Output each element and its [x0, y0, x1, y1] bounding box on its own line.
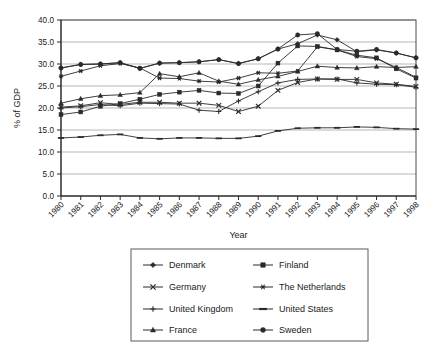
data-point-circle — [79, 62, 83, 66]
data-point-circle — [118, 60, 122, 64]
data-point-dash — [97, 134, 103, 136]
data-point-dash — [259, 308, 267, 310]
data-point-dash — [393, 128, 399, 130]
legend-label: France — [169, 325, 197, 335]
data-point-circle — [335, 47, 339, 51]
data-point-square — [177, 90, 181, 94]
data-point-dash — [196, 137, 202, 139]
data-point-square — [217, 91, 221, 95]
legend-label: Finland — [279, 260, 309, 270]
data-point-dash — [176, 137, 182, 139]
data-point-dash — [373, 126, 379, 128]
data-point-circle — [261, 328, 266, 333]
y-tick-label: 15.0 — [38, 126, 54, 135]
data-point-dash — [295, 127, 301, 129]
gdp-line-chart: 0.05.010.015.020.025.030.035.040.0 19801… — [0, 0, 434, 350]
data-point-circle — [197, 60, 201, 64]
chart-legend: DenmarkFinlandGermanyThe NetherlandsUnit… — [131, 249, 368, 341]
chart-container: 0.05.010.015.020.025.030.035.040.0 19801… — [0, 0, 434, 350]
data-point-dash — [137, 137, 143, 139]
data-point-circle — [315, 31, 319, 35]
data-point-square — [276, 61, 280, 65]
data-point-dash — [117, 134, 123, 136]
data-point-dash — [413, 128, 419, 130]
data-point-circle — [295, 33, 299, 37]
data-point-circle — [414, 56, 418, 60]
data-point-dash — [216, 137, 222, 139]
data-point-circle — [138, 66, 142, 70]
legend-label: United Kingdom — [169, 304, 233, 314]
y-tick-label: 40.0 — [38, 16, 54, 25]
data-point-square — [296, 44, 300, 48]
legend-label: United States — [279, 304, 334, 314]
data-point-circle — [256, 57, 260, 61]
y-axis-title: % of GDP — [12, 88, 22, 128]
legend-box — [131, 249, 368, 341]
data-point-dash — [334, 127, 340, 129]
data-point-circle — [157, 61, 161, 65]
data-point-dash — [156, 138, 162, 140]
x-axis-title: Year — [229, 230, 247, 240]
y-tick-label: 25.0 — [38, 82, 54, 91]
data-point-dash — [354, 126, 360, 128]
data-point-square — [59, 113, 63, 117]
y-tick-label: 0.0 — [43, 192, 55, 201]
legend-label: Germany — [169, 282, 207, 292]
data-point-square — [237, 92, 241, 96]
data-point-square — [261, 263, 265, 267]
data-point-circle — [276, 47, 280, 51]
data-point-square — [256, 84, 260, 88]
y-tick-label: 20.0 — [38, 104, 54, 113]
y-tick-label: 10.0 — [38, 148, 54, 157]
data-point-dash — [235, 137, 241, 139]
data-point-circle — [98, 62, 102, 66]
data-point-square — [158, 92, 162, 96]
data-point-circle — [394, 51, 398, 55]
data-point-circle — [236, 61, 240, 65]
data-point-dash — [314, 127, 320, 129]
data-point-circle — [59, 66, 63, 70]
y-tick-label: 30.0 — [38, 60, 54, 69]
data-point-dash — [58, 137, 64, 139]
data-point-dash — [275, 130, 281, 132]
data-point-circle — [217, 57, 221, 61]
data-point-square — [79, 110, 83, 114]
data-point-dash — [78, 136, 84, 138]
data-point-dash — [255, 135, 261, 137]
legend-label: The Netherlands — [279, 282, 346, 292]
y-tick-label: 35.0 — [38, 38, 54, 47]
data-point-circle — [374, 47, 378, 51]
legend-label: Denmark — [169, 260, 206, 270]
y-tick-label: 5.0 — [43, 170, 55, 179]
data-point-circle — [177, 60, 181, 64]
data-point-circle — [355, 49, 359, 53]
data-point-square — [197, 88, 201, 92]
legend-label: Sweden — [279, 325, 312, 335]
